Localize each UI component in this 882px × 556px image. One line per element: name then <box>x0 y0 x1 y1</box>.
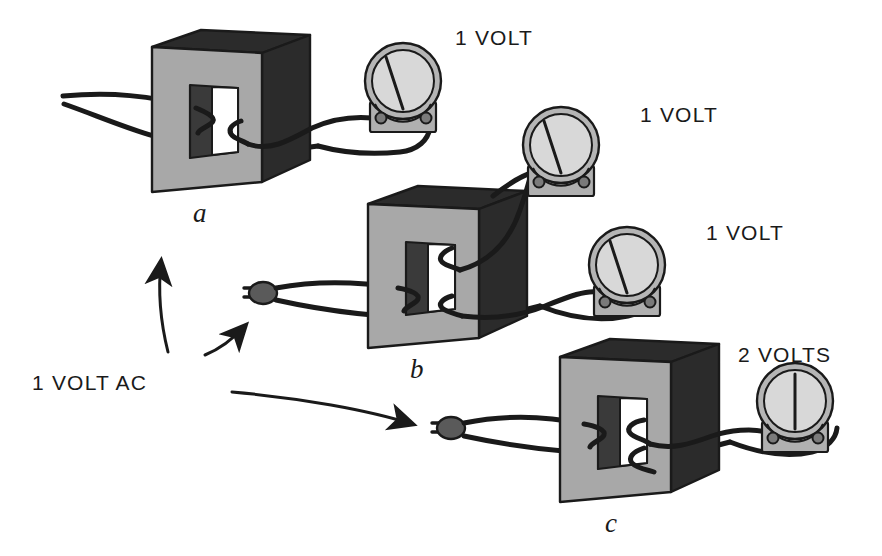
source-label: 1 VOLT AC <box>32 371 147 394</box>
meter-a1-terminal-left <box>376 113 387 124</box>
meter-b2-terminal-left <box>600 297 611 308</box>
plug-b-body <box>249 282 277 304</box>
diagram-canvas: a 1 VOLT <box>0 0 882 556</box>
meter-c1-terminal-left <box>768 433 779 444</box>
core-a-window-hole <box>212 87 238 155</box>
meter-a1-face <box>372 50 434 112</box>
meter-a1 <box>365 43 441 132</box>
reading-label-c: 2 VOLTS <box>738 343 831 366</box>
plug-c-body <box>437 417 465 439</box>
core-a-side-face <box>262 35 310 182</box>
core-a-label: a <box>193 198 207 228</box>
meter-a1-terminal-right <box>421 113 432 124</box>
meter-c1-terminal-right <box>813 433 824 444</box>
meter-b1-face <box>530 114 592 176</box>
reading-label-a: 1 VOLT <box>455 26 533 49</box>
core-b-label: b <box>410 354 424 384</box>
meter-b1-terminal-left <box>534 177 545 188</box>
meter-b2 <box>589 227 665 316</box>
meter-b1-terminal-right <box>579 177 590 188</box>
core-c-side-face <box>671 344 719 492</box>
reading-label-b1: 1 VOLT <box>640 103 718 126</box>
core-c-label: c <box>605 508 617 538</box>
reading-label-b2: 1 VOLT <box>706 221 784 244</box>
meter-c1 <box>757 363 833 452</box>
meter-b2-terminal-right <box>645 297 656 308</box>
transformer-diagram: a 1 VOLT <box>0 0 882 556</box>
meter-b2-face <box>596 234 658 296</box>
meter-b1 <box>523 107 599 196</box>
